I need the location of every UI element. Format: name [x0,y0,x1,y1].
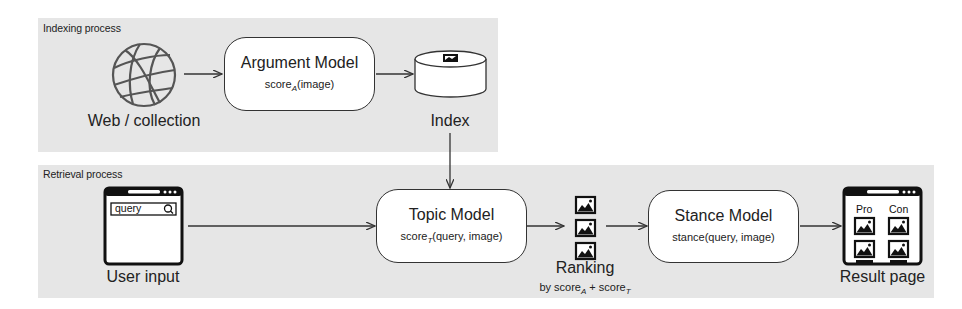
stance-model-formula: stance(query, image) [649,231,798,243]
ranking-formula: by scoreA + scoreT [535,281,635,296]
argument-model-title: Argument Model [225,54,374,72]
argument-model-formula: scoreA(image) [225,78,374,93]
web-collection-label: Web / collection [84,112,204,130]
user-input-browser-icon [105,188,182,264]
ranking-label: Ranking [545,259,625,277]
index-label: Index [420,112,480,130]
result-page-browser-icon [844,188,921,264]
topic-model-formula: scoreT(query, image) [377,230,526,245]
result-pro-column-label: Pro [856,203,872,215]
result-page-label: Result page [830,268,935,286]
globe-icon [113,44,175,106]
topic-model-box: Topic Model scoreT(query, image) [376,189,527,263]
image-stack-icon [576,197,595,259]
stance-model-title: Stance Model [649,207,798,225]
stance-model-box: Stance Model stance(query, image) [648,190,799,263]
query-field-text: query [115,202,141,214]
topic-model-title: Topic Model [377,206,526,224]
database-cylinder-icon [415,51,486,97]
argument-model-box: Argument Model scoreA(image) [224,37,375,111]
user-input-label: User input [93,268,193,286]
result-con-column-label: Con [889,203,908,215]
